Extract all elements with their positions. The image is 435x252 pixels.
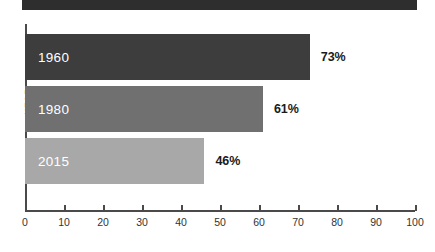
x-axis-tick [25, 205, 27, 211]
x-axis-tick [142, 205, 144, 211]
plot-area: 196073%198061%201546% [25, 24, 415, 210]
bar-1980[interactable]: 1980 [25, 86, 263, 132]
x-axis-tick-label: 40 [175, 216, 187, 228]
bar-row: 198061% [25, 86, 415, 132]
bar-category-label: 1960 [38, 50, 69, 65]
x-axis-tick-label: 30 [136, 216, 148, 228]
x-axis-tick [337, 205, 339, 211]
bar-value-label: 73% [310, 34, 346, 80]
bar-2015[interactable]: 2015 [25, 138, 204, 184]
x-axis-tick [103, 205, 105, 211]
x-axis-tick-label: 0 [22, 216, 28, 228]
bar-1960[interactable]: 1960 [25, 34, 310, 80]
x-axis-tick [64, 205, 66, 211]
x-axis-tick-label: 60 [253, 216, 265, 228]
bar-value-label: 46% [204, 138, 240, 184]
chart-title-banner: SHARE OF ADULTS WHO HAVE EVER BEEN MARRI… [22, 0, 417, 10]
bar-chart: SHARE OF ADULTS WHO HAVE EVER BEEN MARRI… [0, 0, 435, 252]
x-axis-tick-label: 10 [58, 216, 70, 228]
x-axis-tick [220, 205, 222, 211]
x-axis-tick [298, 205, 300, 211]
x-axis-tick-label: 80 [331, 216, 343, 228]
chart-title: SHARE OF ADULTS WHO HAVE EVER BEEN MARRI… [74, 0, 365, 1]
bar-row: 196073% [25, 34, 415, 80]
bar-category-label: 1980 [38, 102, 69, 117]
x-axis-tick [415, 205, 417, 211]
x-axis-tick-label: 20 [97, 216, 109, 228]
bar-category-label: 2015 [38, 154, 69, 169]
x-axis-tick-label: 50 [214, 216, 226, 228]
x-axis-tick-label: 90 [370, 216, 382, 228]
x-axis-tick-label: 70 [292, 216, 304, 228]
x-axis-tick [376, 205, 378, 211]
bar-value-label: 61% [263, 86, 299, 132]
x-axis-tick-label: 100 [406, 216, 424, 228]
x-axis-tick [259, 205, 261, 211]
bar-row: 201546% [25, 138, 415, 184]
x-axis-tick [181, 205, 183, 211]
